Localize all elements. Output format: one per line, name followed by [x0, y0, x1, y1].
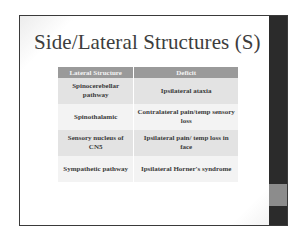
- structure-cell: Spinothalamic: [58, 104, 134, 130]
- lateral-structures-table: Lateral Structure Deficit Spinocerebella…: [58, 67, 238, 182]
- deficit-cell: Ipsilateral ataxia: [134, 78, 238, 104]
- deficit-cell: Ipsilateral Horner's syndrome: [134, 156, 238, 182]
- table-row: Spinocerebellar pathway Ipsilateral atax…: [58, 78, 238, 104]
- deficit-cell: Ipsilateral pain/ temp loss in face: [134, 130, 238, 156]
- table-row: Sympathetic pathway Ipsilateral Horner's…: [58, 156, 238, 182]
- column-header-deficit: Deficit: [134, 67, 238, 78]
- table-row: Sensory nucleus of CN5 Ipsilateral pain/…: [58, 130, 238, 156]
- deficit-cell: Contralateral pain/temp sensory loss: [134, 104, 238, 130]
- slide: Side/Lateral Structures (S) Lateral Stru…: [19, 15, 288, 226]
- slide-side-bar-accent: [269, 184, 287, 206]
- structure-cell: Sympathetic pathway: [58, 156, 134, 182]
- table-row: Spinothalamic Contralateral pain/temp se…: [58, 104, 238, 130]
- column-header-structure: Lateral Structure: [58, 67, 134, 78]
- structure-cell: Spinocerebellar pathway: [58, 78, 134, 104]
- table-header-row: Lateral Structure Deficit: [58, 67, 238, 78]
- structure-cell: Sensory nucleus of CN5: [58, 130, 134, 156]
- slide-title: Side/Lateral Structures (S): [34, 30, 261, 55]
